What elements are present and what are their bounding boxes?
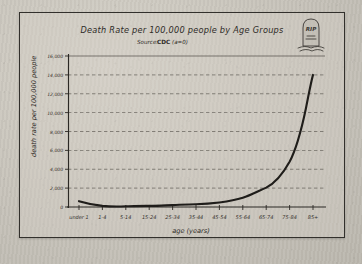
chart-title: Death Rate per 100,000 people by Age Gro… [80,25,284,35]
x-tick-label-15-24: 15-24 [142,214,157,220]
tombstone-rip-label: RIP [306,26,317,32]
x-tick-label-5-14: 5-14 [120,214,131,220]
source-organization: CDC [157,39,170,45]
y-tick-label-12000: 12,000 [47,92,63,97]
x-tick-label-65-74: 65-74 [259,214,274,220]
tombstone-icon: RIP [298,19,324,51]
death-rate-curve [79,75,313,207]
y-tick-label-14000: 14,000 [47,73,63,78]
y-tick-label-6000: 6,000 [50,148,63,153]
x-tick-label-35-44: 35-44 [189,214,204,220]
y-tick-label-10000: 10,000 [47,111,63,116]
source-detail: (a=0) [172,39,188,45]
death-rate-chart: Death Rate per 100,000 people by Age Gro… [19,12,345,238]
y-axis-title: death rate per 100,000 people [30,56,38,157]
x-tick-label-25-34: 25-34 [165,214,180,220]
x-tick-label-75-84: 75-84 [282,214,297,220]
y-tick-label-0: 0 [60,205,63,210]
x-tick-label-1-4: 1-4 [98,214,106,220]
x-tick-label-55-64: 55-64 [236,214,251,220]
y-tick-label-16000: 16,000 [47,54,63,59]
x-tick-label-under-1: under 1 [69,214,88,220]
x-tick-label-45-54: 45-54 [212,214,227,220]
y-tick-label-2000: 2,000 [50,186,63,191]
x-tick-label-85-plus: 85+ [308,214,319,220]
y-tick-label-8000: 8,000 [50,130,63,135]
x-axis-title: age (years) [172,227,210,235]
y-tick-label-4000: 4,000 [50,167,63,172]
source-prefix-label: Source: [137,39,158,45]
